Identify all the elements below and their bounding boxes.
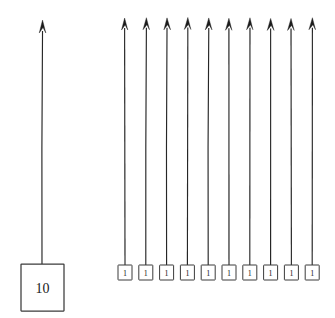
node-label-1: 1 — [185, 269, 189, 278]
node-label-1: 1 — [310, 269, 314, 278]
arrow-stem — [166, 28, 167, 265]
arrow-stem — [42, 31, 43, 264]
node-label-1: 1 — [123, 269, 127, 278]
single-large-node-group: 10 — [21, 20, 64, 311]
node-label-1: 1 — [165, 269, 169, 278]
node-label-1: 1 — [206, 269, 210, 278]
node-label-1: 1 — [248, 269, 252, 278]
arrow-stem — [208, 28, 209, 265]
ten-small-nodes-group: 1111111111 — [118, 18, 319, 280]
diagram-svg: 10 1111111111 — [0, 0, 335, 318]
node-label-10: 10 — [36, 281, 50, 296]
diagram-canvas: 10 1111111111 — [0, 0, 335, 318]
node-label-1: 1 — [269, 269, 273, 278]
node-label-1: 1 — [144, 269, 148, 278]
node-label-1: 1 — [289, 269, 293, 278]
arrow-stem — [146, 28, 147, 265]
node-label-1: 1 — [227, 269, 231, 278]
